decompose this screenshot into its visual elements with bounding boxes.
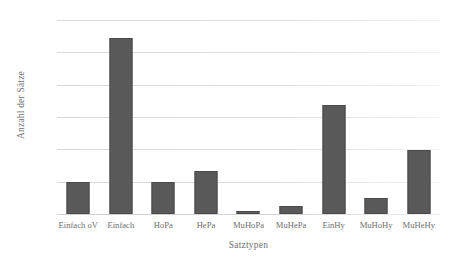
bar-chart-figure: Anzahl der Sätze 0100200300400500600 Ein…: [0, 0, 465, 271]
bar[interactable]: [152, 182, 175, 214]
x-axis-title: Satztypen: [57, 240, 440, 250]
x-tick-label: MuHoHy: [360, 220, 393, 230]
x-tick-label: MuHePa: [276, 220, 307, 230]
bar-slot: [312, 20, 355, 214]
bar-slot: [57, 20, 100, 214]
plot-area: 0100200300400500600: [57, 20, 440, 214]
bar[interactable]: [67, 182, 90, 214]
x-tick-label: Einfach: [107, 220, 134, 230]
x-axis-category-labels: Einfach oVEinfachHoPaHePaMuHoPaMuHePaEin…: [57, 220, 440, 236]
bar[interactable]: [322, 105, 345, 214]
bar[interactable]: [109, 38, 132, 214]
bar[interactable]: [280, 206, 303, 214]
y-axis-title: Anzahl der Sätze: [16, 50, 26, 160]
bar[interactable]: [237, 211, 260, 214]
x-tick-label: Einfach oV: [59, 220, 98, 230]
bar-slot: [227, 20, 270, 214]
x-tick-label: MuHeHy: [402, 220, 434, 230]
x-tick-label: MuHoPa: [233, 220, 264, 230]
bars-group: [57, 20, 440, 214]
x-tick-label: HePa: [197, 220, 216, 230]
bar[interactable]: [194, 171, 217, 214]
gridline-0: [57, 214, 440, 215]
bar-slot: [270, 20, 313, 214]
bar[interactable]: [407, 150, 430, 214]
bar-slot: [100, 20, 143, 214]
x-tick-label: HoPa: [154, 220, 173, 230]
bar-slot: [355, 20, 398, 214]
bar[interactable]: [365, 198, 388, 214]
bar-slot: [185, 20, 228, 214]
bar-slot: [142, 20, 185, 214]
x-tick-label: EinHy: [322, 220, 344, 230]
bar-slot: [397, 20, 440, 214]
